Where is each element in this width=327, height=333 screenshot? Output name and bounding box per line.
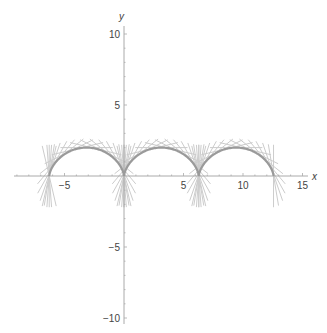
cycloid-plot: −551015−10−5510 x y [0, 0, 327, 333]
y-axis-label: y [118, 11, 125, 22]
x-axis-label: x [311, 171, 318, 182]
cycloid-path [49, 148, 273, 176]
y-tick-label: 10 [109, 29, 121, 40]
y-tick-label: −10 [103, 313, 120, 324]
x-tick-label: 15 [297, 180, 309, 191]
x-tick-label: −5 [59, 180, 71, 191]
x-tick-label: 10 [237, 180, 249, 191]
cycloid-curve [49, 148, 273, 176]
axes [14, 26, 308, 324]
x-tick-label: 5 [181, 180, 187, 191]
y-tick-label: 5 [114, 100, 120, 111]
y-tick-label: −5 [109, 242, 121, 253]
